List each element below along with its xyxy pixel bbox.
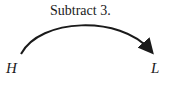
node-l: L [151,60,159,77]
curved-arrow-icon [0,0,173,87]
node-h: H [6,60,17,77]
